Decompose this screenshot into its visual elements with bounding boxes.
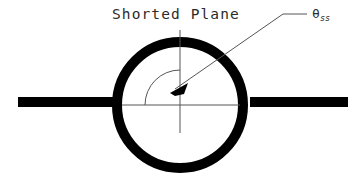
diagram-canvas: Shorted Plane θ ss [0, 0, 358, 182]
leader-arrowhead [170, 83, 188, 96]
angle-arc [145, 70, 180, 105]
shorted-plane-label: Shorted Plane [112, 6, 240, 22]
right-transmission-line-stub [250, 97, 348, 107]
theta-angle-label: θ [312, 6, 320, 21]
theta-subscript-label: ss [320, 13, 330, 23]
shorted-plane-ring-diagram: Shorted Plane θ ss [0, 0, 358, 182]
left-transmission-line-stub [18, 97, 118, 107]
